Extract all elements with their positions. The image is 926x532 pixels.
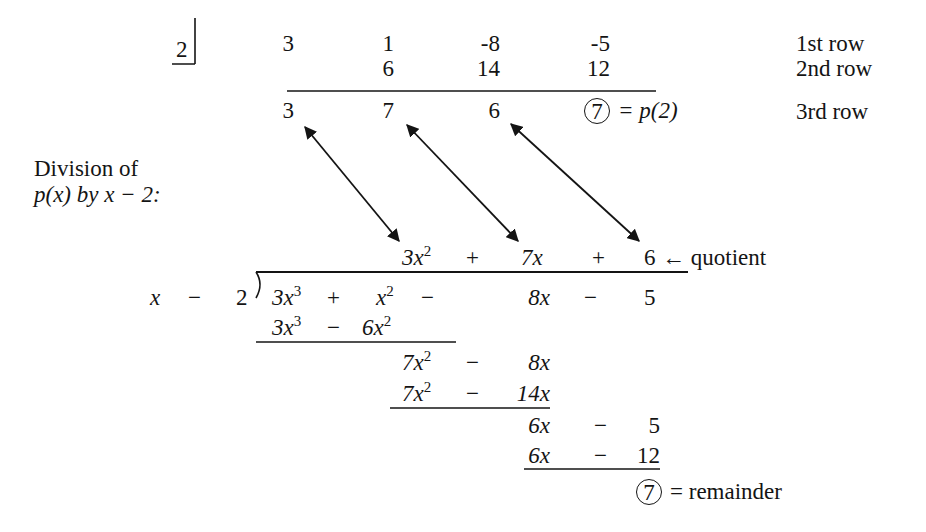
step5-b: 12 (626, 443, 660, 469)
caption-line2: p(x) by x − 2: (34, 182, 161, 208)
row3-c2: 6 (470, 98, 500, 124)
divisor-const: 2 (236, 285, 248, 311)
remainder-circle-long: 7 (636, 479, 662, 505)
quotient-label: ← quotient (662, 245, 766, 271)
step2-a: 7x2 (402, 350, 431, 376)
row1-c0: 3 (270, 31, 294, 57)
step1-b: 6x2 (362, 315, 391, 341)
row2-c1: 6 (370, 56, 394, 82)
row1-c2: -8 (470, 31, 500, 57)
dividend-term1: 3x3 (272, 285, 301, 311)
remainder-label: = remainder (670, 479, 782, 505)
step5-op: − (594, 443, 607, 469)
caption-line1: Division of (34, 156, 138, 182)
quotient-term3: 6 (644, 245, 656, 271)
arrow-7 (407, 125, 518, 241)
remainder-circle: 7 (584, 98, 610, 124)
step1-op: − (327, 315, 340, 341)
quotient-op1: + (466, 245, 479, 271)
dividend-term2: x2 (376, 285, 394, 311)
step2-op: − (466, 350, 479, 376)
synthetic-remainder: 7 (584, 98, 610, 125)
step4-b: 5 (626, 413, 660, 439)
step3-b: 14x (480, 381, 550, 407)
dividend-term3: 8x (480, 285, 550, 311)
row-label-2: 2nd row (796, 56, 872, 82)
row-label-1: 1st row (796, 31, 864, 57)
arrow-3 (305, 127, 399, 241)
division-paren (256, 272, 260, 298)
quotient-term1: 3x2 (402, 245, 431, 271)
row1-c1: 1 (370, 31, 394, 57)
step4-a: 6x (480, 413, 550, 439)
row-label-3: 3rd row (796, 99, 868, 125)
long-remainder: 7 (636, 479, 662, 506)
step3-op: − (466, 381, 479, 407)
dividend-op1: + (327, 285, 340, 311)
step4-op: − (594, 413, 607, 439)
synthetic-divisor: 2 (176, 37, 188, 63)
dividend-term4: 5 (644, 285, 656, 311)
step5-a: 6x (480, 443, 550, 469)
dividend-op3: − (584, 285, 597, 311)
dividend-op2: − (421, 285, 434, 311)
rules-and-arrows (0, 0, 926, 532)
remainder-eq: = p(2) (618, 98, 678, 124)
row1-c3: -5 (580, 31, 610, 57)
row3-c1: 7 (370, 98, 394, 124)
step3-a: 7x2 (402, 381, 431, 407)
row2-c3: 12 (580, 56, 610, 82)
divisor-op: − (188, 285, 201, 311)
row2-c2: 14 (470, 56, 500, 82)
arrow-6 (511, 124, 639, 241)
quotient-term2: 7x (521, 245, 543, 271)
step2-b: 8x (480, 350, 550, 376)
quotient-op2: + (592, 245, 605, 271)
step1-a: 3x3 (272, 315, 301, 341)
divisor-x: x (150, 285, 160, 311)
row3-c0: 3 (270, 98, 294, 124)
